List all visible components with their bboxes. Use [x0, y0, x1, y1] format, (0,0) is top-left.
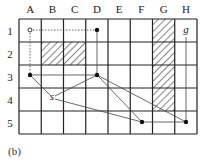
- obstacle-cell: [153, 19, 175, 42]
- path-edge: [55, 75, 97, 96]
- figure-caption: (b): [8, 145, 21, 157]
- path-node: [140, 120, 144, 124]
- obstacle-cell: [64, 42, 86, 65]
- path-node: [95, 28, 99, 32]
- obstacle-cell: [153, 42, 175, 65]
- column-labels: ABCDEFGH: [26, 3, 190, 15]
- grid-path-diagram: ABCDEFGH 12345 s g: [0, 0, 206, 162]
- row-label: 5: [7, 117, 13, 129]
- obstacle-cell: [41, 42, 63, 65]
- row-label: 2: [7, 48, 13, 60]
- column-label: G: [160, 3, 168, 15]
- start-node: [28, 28, 32, 32]
- path-node: [184, 120, 188, 124]
- goal-label: g: [183, 23, 189, 35]
- column-label: F: [138, 3, 144, 15]
- path-edge: [97, 75, 142, 122]
- row-label: 1: [7, 25, 13, 37]
- row-labels: 12345: [7, 25, 13, 129]
- start-label: s: [50, 90, 54, 102]
- row-label: 3: [7, 71, 13, 83]
- column-label: C: [71, 3, 78, 15]
- column-label: E: [116, 3, 123, 15]
- row-label: 4: [7, 94, 13, 106]
- path-node: [28, 73, 32, 77]
- obstacle-cell: [153, 88, 175, 111]
- column-label: D: [93, 3, 101, 15]
- path-node: [95, 73, 99, 77]
- obstacle-cell: [153, 65, 175, 88]
- column-label: A: [26, 3, 34, 15]
- path-edge: [30, 75, 51, 96]
- column-label: H: [182, 3, 190, 15]
- column-label: B: [49, 3, 56, 15]
